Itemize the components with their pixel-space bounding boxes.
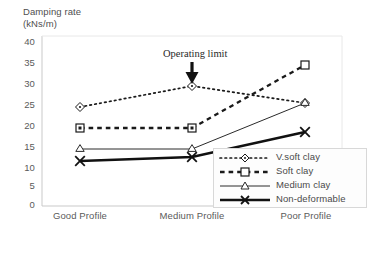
legend-swatch-soft-clay bbox=[218, 165, 272, 179]
legend-label-medium-clay: Medium clay bbox=[276, 179, 330, 190]
operating-limit-arrow-icon bbox=[186, 62, 199, 84]
legend-item-medium-clay[interactable]: Medium clay bbox=[218, 179, 364, 193]
chart-legend: V.soft clay Soft clay Medium clay bbox=[213, 148, 367, 208]
legend-label-non-deformable: Non-deformable bbox=[276, 193, 346, 204]
x-axis-tick-poor-profile: Poor Profile bbox=[268, 210, 344, 221]
marker-triangle-good bbox=[76, 145, 84, 152]
marker-diamond-good bbox=[76, 103, 85, 112]
x-axis-tick-medium-profile: Medium Profile bbox=[152, 210, 232, 221]
legend-swatch-medium-clay bbox=[218, 179, 272, 193]
damping-rate-chart: Damping rate (kNs/m) 40 35 30 25 20 15 1… bbox=[0, 0, 373, 259]
legend-label-v-soft-clay: V.soft clay bbox=[276, 151, 320, 162]
legend-item-v-soft-clay[interactable]: V.soft clay bbox=[218, 151, 364, 165]
marker-square-medium bbox=[188, 124, 196, 132]
legend-label-soft-clay: Soft clay bbox=[276, 165, 313, 176]
operating-limit-annotation: Operating limit bbox=[163, 48, 227, 59]
series-v-soft-clay bbox=[76, 82, 310, 112]
legend-swatch-v-soft-clay bbox=[218, 151, 272, 165]
legend-swatch-non-deformable bbox=[218, 193, 272, 207]
marker-square-good bbox=[76, 124, 84, 132]
legend-item-soft-clay[interactable]: Soft clay bbox=[218, 165, 364, 179]
marker-square-poor bbox=[301, 61, 309, 69]
x-axis-tick-good-profile: Good Profile bbox=[42, 210, 118, 221]
legend-item-non-deformable[interactable]: Non-deformable bbox=[218, 193, 364, 207]
